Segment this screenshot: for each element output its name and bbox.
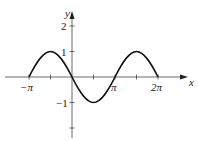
x-tick-label-neg-pi: −π — [20, 81, 33, 93]
x-axis-label: x — [188, 76, 194, 88]
x-axis-arrow-icon — [180, 75, 188, 80]
y-tick-label-1: 1 — [61, 46, 67, 58]
y-axis-label: y — [64, 7, 70, 19]
y-axis-arrow-icon — [70, 11, 75, 19]
x-tick-label-2pi: 2π — [151, 81, 163, 93]
x-tick-label-pi: π — [111, 81, 117, 93]
chart: y x 2 1 −1 −π π 2π — [0, 0, 198, 141]
y-tick-label-2: 2 — [61, 20, 67, 32]
y-tick-label-neg1: −1 — [56, 97, 68, 109]
